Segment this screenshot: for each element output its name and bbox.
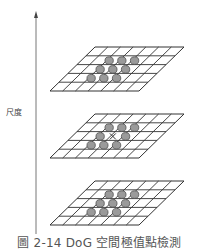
neighbor-point bbox=[100, 208, 108, 216]
neighbor-point bbox=[105, 57, 113, 65]
neighbor-point bbox=[121, 66, 129, 74]
neighbor-point bbox=[96, 200, 104, 208]
neighbor-point bbox=[130, 191, 138, 199]
neighbor-point bbox=[100, 74, 108, 82]
neighbor-point bbox=[118, 124, 126, 132]
neighbor-point bbox=[105, 191, 113, 199]
neighbor-point bbox=[109, 66, 117, 74]
scale-plane-current-scale bbox=[50, 114, 184, 158]
neighbor-point bbox=[109, 200, 117, 208]
neighbor-point bbox=[87, 141, 95, 149]
neighbor-point bbox=[130, 124, 138, 132]
neighbor-point bbox=[100, 141, 108, 149]
figure-caption: 圖 2-14 DoG 空間極值點檢測 bbox=[0, 233, 199, 250]
neighbor-point bbox=[96, 133, 104, 141]
neighbor-point bbox=[87, 208, 95, 216]
neighbor-point bbox=[112, 74, 120, 82]
arrow-up-icon bbox=[34, 11, 38, 18]
neighbor-point bbox=[121, 133, 129, 141]
scale-axis-label: 尺度 bbox=[6, 106, 22, 117]
scale-plane-upper-scale bbox=[50, 47, 184, 91]
neighbor-point bbox=[112, 141, 120, 149]
scale-plane-lower-scale bbox=[50, 181, 184, 225]
neighbor-point bbox=[118, 191, 126, 199]
neighbor-point bbox=[112, 208, 120, 216]
neighbor-point bbox=[118, 57, 126, 65]
scale-axis bbox=[34, 11, 38, 234]
neighbor-point bbox=[121, 200, 129, 208]
neighbor-point bbox=[87, 74, 95, 82]
neighbor-point bbox=[105, 124, 113, 132]
neighbor-point bbox=[96, 66, 104, 74]
dog-extrema-diagram bbox=[0, 0, 199, 250]
neighbor-point bbox=[130, 57, 138, 65]
